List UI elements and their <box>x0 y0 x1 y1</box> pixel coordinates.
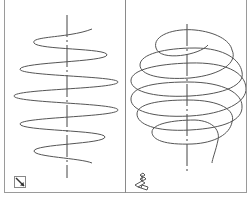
helix-isometric-drawing <box>126 0 246 193</box>
helix-curve-3d <box>131 30 246 163</box>
helix-side-view-drawing <box>5 0 125 193</box>
viewport-right-isometric-view[interactable] <box>126 0 246 193</box>
viewport-left-front-view[interactable] <box>5 0 125 193</box>
ucs-2d-icon <box>14 176 26 188</box>
ucs-3d-icon <box>133 171 151 193</box>
helix-curve-side <box>14 29 118 163</box>
